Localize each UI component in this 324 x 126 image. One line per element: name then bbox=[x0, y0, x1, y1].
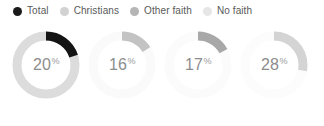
legend-dot-icon bbox=[13, 7, 22, 16]
legend-item-other-faith[interactable]: Other faith bbox=[130, 6, 192, 16]
percent-symbol: % bbox=[52, 57, 60, 66]
legend-item-label: Total bbox=[27, 6, 49, 16]
donut-gauge-no-faith[interactable]: 28% bbox=[236, 27, 312, 103]
donut-center-label: 20% bbox=[8, 27, 84, 103]
gauge-value: 16 bbox=[109, 57, 127, 73]
percent-symbol: % bbox=[204, 57, 212, 66]
legend-dot-icon bbox=[130, 7, 139, 16]
legend-item-total[interactable]: Total bbox=[13, 6, 49, 16]
gauge-value: 28 bbox=[261, 57, 279, 73]
percent-symbol: % bbox=[280, 57, 288, 66]
legend-item-label: Christians bbox=[74, 6, 119, 16]
donut-gauge-other-faith[interactable]: 17% bbox=[160, 27, 236, 103]
legend-dot-icon bbox=[60, 7, 69, 16]
gauge-value: 20 bbox=[33, 57, 51, 73]
percent-symbol: % bbox=[128, 57, 136, 66]
donut-center-label: 16% bbox=[84, 27, 160, 103]
legend-dot-icon bbox=[203, 7, 212, 16]
donut-gauge-christians[interactable]: 16% bbox=[84, 27, 160, 103]
chart-legend: Total Christians Other faith No faith bbox=[0, 0, 324, 22]
legend-item-label: No faith bbox=[217, 6, 252, 16]
legend-item-label: Other faith bbox=[144, 6, 192, 16]
gauge-value: 17 bbox=[185, 57, 203, 73]
donut-center-label: 17% bbox=[160, 27, 236, 103]
donut-gauge-widget: Total Christians Other faith No faith 20… bbox=[0, 0, 324, 126]
donut-center-label: 28% bbox=[236, 27, 312, 103]
gauge-row: 20% 16% 17% bbox=[0, 22, 324, 126]
legend-item-no-faith[interactable]: No faith bbox=[203, 6, 252, 16]
legend-item-christians[interactable]: Christians bbox=[60, 6, 119, 16]
donut-gauge-total[interactable]: 20% bbox=[8, 27, 84, 103]
